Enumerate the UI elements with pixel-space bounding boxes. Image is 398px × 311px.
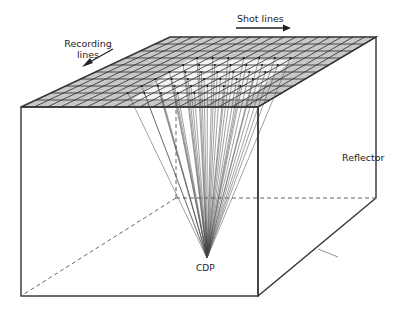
recording-lines-label-line1: Recording <box>58 38 118 49</box>
front-face <box>21 107 258 296</box>
shot-lines-arrow <box>236 25 291 32</box>
reflector-leader <box>318 249 338 257</box>
reflector-label: Reflector <box>342 152 385 163</box>
shot-lines-label: Shot lines <box>237 13 284 24</box>
cdp-label: CDP <box>196 263 215 274</box>
recording-lines-label: Recording lines <box>58 38 118 60</box>
recording-lines-label-line2: lines <box>58 49 118 60</box>
